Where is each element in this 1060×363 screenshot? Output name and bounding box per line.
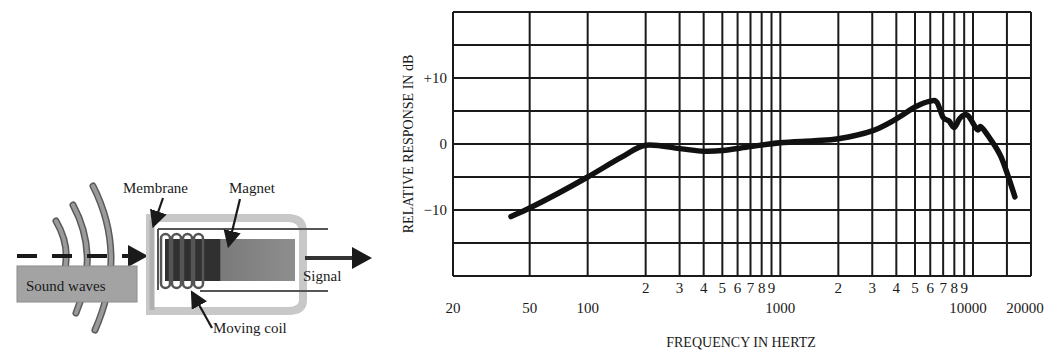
membrane-label: Membrane bbox=[123, 180, 188, 196]
y-tick-label: +10 bbox=[424, 70, 447, 86]
frequency-response-svg: +100−10 23456789234567892050100100010000… bbox=[390, 0, 1060, 363]
x-minor-tick-label: 3 bbox=[869, 280, 877, 296]
signal-arrow bbox=[305, 247, 372, 269]
x-minor-tick-label: 7 bbox=[939, 280, 947, 296]
microphone-diagram: Sound waves Signal Membrane bbox=[0, 0, 390, 363]
x-major-tick-label: 20 bbox=[446, 300, 461, 316]
moving-coil-label: Moving coil bbox=[213, 320, 287, 336]
y-tick-label: 0 bbox=[440, 136, 448, 152]
sound-direction-arrow bbox=[17, 245, 148, 267]
x-major-tick-label: 50 bbox=[522, 300, 537, 316]
frequency-response-chart: +100−10 23456789234567892050100100010000… bbox=[390, 0, 1060, 363]
x-minor-tick-label: 5 bbox=[719, 280, 727, 296]
microphone-diagram-svg: Sound waves Signal Membrane bbox=[0, 0, 390, 363]
magnet bbox=[165, 239, 295, 281]
x-minor-tick-label: 3 bbox=[676, 280, 684, 296]
x-minor-tick-label: 6 bbox=[734, 280, 742, 296]
x-minor-tick-label: 2 bbox=[642, 280, 650, 296]
x-minor-tick-label: 4 bbox=[893, 280, 901, 296]
signal-label: Signal bbox=[303, 268, 341, 284]
x-minor-tick-label: 6 bbox=[927, 280, 935, 296]
x-minor-tick-label: 2 bbox=[835, 280, 843, 296]
sound-waves-box: Sound waves bbox=[17, 266, 137, 302]
x-major-tick-label: 10000 bbox=[949, 300, 987, 316]
y-axis-ticks: +100−10 bbox=[424, 70, 447, 218]
x-minor-tick-label: 9 bbox=[768, 280, 776, 296]
sound-waves-label: Sound waves bbox=[26, 278, 106, 294]
magnet-label: Magnet bbox=[229, 180, 276, 196]
x-minor-tick-label: 5 bbox=[911, 280, 919, 296]
x-minor-tick-label: 4 bbox=[700, 280, 708, 296]
y-tick-label: −10 bbox=[424, 202, 447, 218]
x-minor-tick-label: 7 bbox=[747, 280, 755, 296]
x-major-tick-label: 20000 bbox=[1006, 300, 1044, 316]
x-minor-tick-label: 9 bbox=[960, 280, 968, 296]
response-curve bbox=[511, 100, 1015, 216]
y-axis-title: RELATIVE RESPONSE IN dB bbox=[401, 55, 416, 234]
x-minor-tick-label: 8 bbox=[758, 280, 766, 296]
x-major-tick-label: 100 bbox=[576, 300, 599, 316]
x-axis-ticks: 2345678923456789205010010001000020000 bbox=[446, 280, 1044, 316]
x-axis-title: FREQUENCY IN HERTZ bbox=[666, 335, 816, 350]
chart-grid bbox=[453, 12, 1031, 276]
x-minor-tick-label: 8 bbox=[951, 280, 959, 296]
x-major-tick-label: 1000 bbox=[765, 300, 795, 316]
